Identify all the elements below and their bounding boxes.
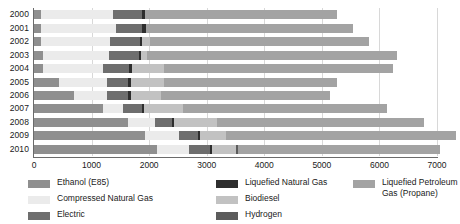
bar-segment — [34, 104, 103, 113]
x-axis-tick-label: 0 — [32, 160, 37, 170]
bar-segment — [34, 10, 41, 19]
bar-segment — [103, 104, 124, 113]
bar-row — [34, 78, 437, 87]
bar-segment — [109, 51, 139, 60]
bar-segment — [155, 118, 172, 127]
bar-segment — [116, 24, 142, 33]
legend-label: Hydrogen — [245, 209, 282, 220]
x-axis-line — [33, 157, 438, 158]
bar-segment — [34, 64, 43, 73]
bar-segment — [217, 118, 424, 127]
bar-segment — [110, 37, 140, 46]
legend-swatch — [28, 180, 50, 188]
legend-label: Compressed Natural Gas — [57, 193, 153, 204]
bar-segment — [157, 145, 189, 154]
bar-segment — [34, 118, 128, 127]
legend-label: Biodiesel — [245, 193, 280, 204]
legend-label: Liquefied Natural Gas — [245, 177, 327, 188]
legend-swatch — [28, 212, 50, 220]
x-axis-tick-label: 3000 — [197, 160, 216, 170]
bar-segment — [132, 64, 163, 73]
bar-row — [34, 118, 437, 127]
bar-segment — [103, 64, 129, 73]
y-axis-tick-label: 2004 — [0, 64, 29, 73]
bar-segment — [174, 118, 217, 127]
legend-swatch — [216, 196, 238, 204]
bar-segment — [142, 37, 149, 46]
bar-segment — [41, 24, 116, 33]
bar-segment — [144, 104, 183, 113]
legend-swatch — [216, 180, 238, 188]
bar-segment — [107, 78, 128, 87]
legend-swatch — [28, 196, 50, 204]
bar-segment — [41, 10, 113, 19]
bar-segment — [164, 64, 393, 73]
bar-segment — [128, 118, 154, 127]
legend-label: Electric — [57, 209, 85, 220]
bar-segment — [74, 91, 106, 100]
bar-segment — [150, 37, 369, 46]
bar-segment — [146, 24, 353, 33]
bar-segment — [189, 145, 210, 154]
y-axis-tick-label: 2006 — [0, 91, 29, 100]
legend-swatch — [216, 212, 238, 220]
y-axis-tick-label: 2010 — [0, 145, 29, 154]
bar-segment — [131, 78, 163, 87]
bar-row — [34, 131, 437, 140]
bar-rows — [34, 8, 437, 156]
bar-segment — [131, 91, 162, 100]
bar-segment — [164, 78, 337, 87]
bar-row — [34, 91, 437, 100]
x-axis-tick-label: 5000 — [312, 160, 331, 170]
bar-segment — [183, 104, 388, 113]
x-axis-tick-label: 1000 — [82, 160, 101, 170]
bar-segment — [107, 91, 129, 100]
bar-row — [34, 51, 437, 60]
bar-segment — [226, 131, 456, 140]
bar-segment — [43, 64, 103, 73]
bar-segment — [145, 131, 178, 140]
plot-area — [34, 8, 437, 156]
bar-segment — [113, 10, 142, 19]
x-axis-tick-label: 7000 — [428, 160, 447, 170]
legend-label: Ethanol (E85) — [57, 177, 109, 188]
y-axis-tick-label: 2000 — [0, 10, 29, 19]
bar-segment — [123, 104, 141, 113]
bar-row — [34, 37, 437, 46]
x-axis-tick-label: 6000 — [370, 160, 389, 170]
bar-segment — [200, 131, 226, 140]
y-axis-tick-label: 2009 — [0, 131, 29, 140]
bar-segment — [34, 131, 145, 140]
legend-label-lpg: Liquefied PetroleumGas (Propane) — [382, 177, 460, 199]
y-axis-tick-label: 2001 — [0, 24, 29, 33]
y-axis-tick-label: 2007 — [0, 104, 29, 113]
bar-segment — [161, 91, 330, 100]
bar-segment — [59, 78, 107, 87]
bar-segment — [41, 37, 110, 46]
chart-legend: Ethanol (E85)Compressed Natural GasElect… — [28, 177, 460, 222]
bar-segment — [34, 24, 41, 33]
bar-segment — [238, 145, 440, 154]
bar-segment — [34, 51, 43, 60]
bar-segment — [34, 145, 157, 154]
y-axis-tick-label: 2008 — [0, 118, 29, 127]
bar-segment — [34, 37, 41, 46]
y-axis-tick-label: 2003 — [0, 51, 29, 60]
bar-segment — [145, 10, 336, 19]
y-axis-tick-label: 2005 — [0, 78, 29, 87]
bar-row — [34, 104, 437, 113]
bar-row — [34, 64, 437, 73]
bar-segment — [34, 78, 59, 87]
y-axis-tick-label: 2002 — [0, 37, 29, 46]
bar-segment — [212, 145, 236, 154]
stacked-bar-chart: 2000200120022003200420052006200720082009… — [0, 0, 460, 224]
bar-row — [34, 145, 437, 154]
legend-swatch-lpg — [353, 180, 375, 188]
x-axis-tick-label: 2000 — [140, 160, 159, 170]
bar-segment — [34, 91, 74, 100]
bar-row — [34, 10, 437, 19]
x-axis-tick-label: 4000 — [255, 160, 274, 170]
bar-segment — [43, 51, 109, 60]
bar-segment — [147, 51, 397, 60]
bar-segment — [179, 131, 199, 140]
